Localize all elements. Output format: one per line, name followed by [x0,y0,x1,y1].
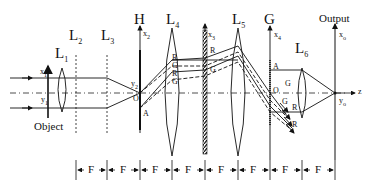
label-G: G [264,12,275,27]
label-O-G: O [273,87,279,95]
label-output: Output [319,13,350,24]
spacing-markers [76,160,335,180]
spacing-label-1: F [88,164,94,175]
spacing-label-3: F [152,164,158,175]
label-y2: y2 [131,80,138,90]
spacing-label-7: F [282,164,288,175]
label-object: Object [34,121,63,132]
label-L2: L2 [69,28,82,46]
label-L4: L4 [166,12,179,30]
ray-label-G4: G [285,80,291,88]
label-L6: L6 [295,41,308,59]
label-xo: xo [339,31,346,41]
ray-label-G2: G [172,78,178,86]
label-z: z [358,88,362,96]
ray-label-G3: G [210,66,216,74]
label-A-G: A [273,63,279,71]
lens-L1 [58,68,66,112]
label-x2: x2 [143,30,150,40]
label-yo: yo [339,97,346,107]
grating-x3 [203,24,207,154]
optical-system-diagram [0,0,372,190]
spacing-label-6: F [250,164,256,175]
label-H: H [134,12,145,27]
label-x4: x4 [274,31,281,41]
spacing-label-2: F [120,164,126,175]
spacing-label-8: F [315,164,321,175]
label-L5: L5 [232,12,245,30]
plane-output [334,24,337,160]
ray-label-G5: G [282,98,288,106]
lens-L5 [231,28,245,156]
label-y1: y1 [41,96,48,106]
label-A-H: A [143,110,149,118]
label-x1: x1 [40,68,47,78]
ray-label-R4: R [292,104,297,112]
diffracted-rays [140,46,294,132]
lens-L4 [165,28,179,156]
ray-label-R5: R [292,121,297,129]
spacing-label-4: F [185,164,191,175]
label-O-H: O [133,95,139,103]
spacing-label-5: F [218,164,224,175]
label-x3: x3 [208,31,215,41]
ray-label-R3: R [210,47,215,55]
label-L3: L3 [101,28,114,46]
label-L1: L1 [55,46,68,64]
